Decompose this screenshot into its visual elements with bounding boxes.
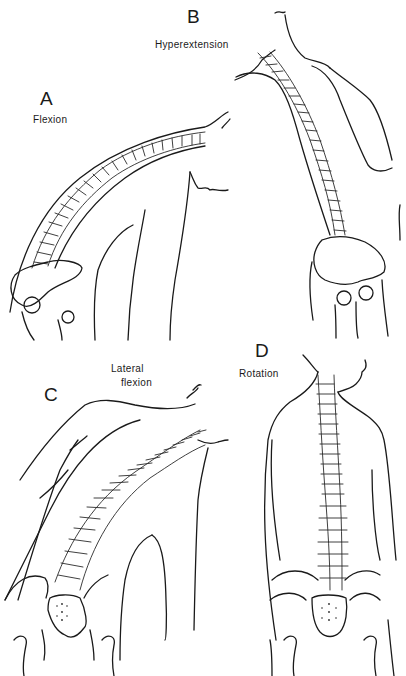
spine-illustration bbox=[0, 0, 406, 676]
panel-a-figure bbox=[10, 112, 230, 340]
panel-b-figure bbox=[235, 12, 400, 338]
panel-d-figure bbox=[265, 355, 396, 676]
panel-c-figure bbox=[5, 385, 228, 676]
